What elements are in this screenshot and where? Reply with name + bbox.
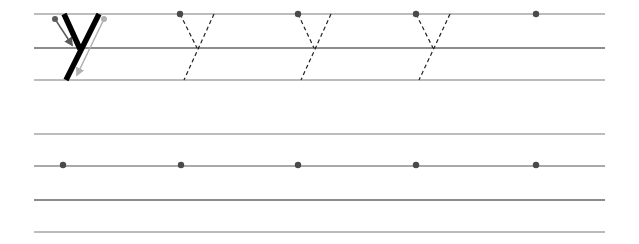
start-dot-icon — [60, 162, 66, 168]
trace-letter-dashed-stroke — [416, 14, 433, 48]
start-dot-icon — [52, 16, 58, 22]
start-dot-icon — [533, 162, 539, 168]
start-dot-icon — [101, 16, 107, 22]
start-dot-icon — [413, 11, 419, 17]
start-dot-icon — [295, 11, 301, 17]
start-dot-icon — [295, 162, 301, 168]
trace-letter-dashed-stroke — [180, 14, 197, 48]
writing-practice-canvas[interactable] — [0, 0, 639, 244]
start-dot-icon — [178, 162, 184, 168]
start-dot-icon — [177, 11, 183, 17]
start-dot-icon — [413, 162, 419, 168]
trace-letter-dashed-stroke — [298, 14, 314, 48]
start-dot-icon — [533, 11, 539, 17]
handwriting-worksheet — [0, 0, 639, 244]
